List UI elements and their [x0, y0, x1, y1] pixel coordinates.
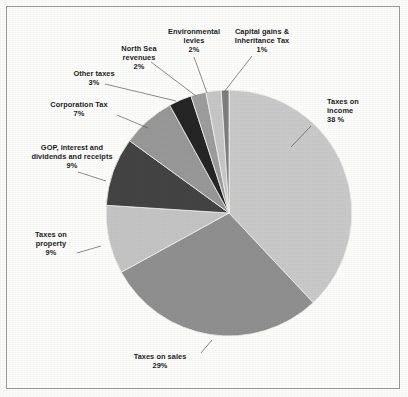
slice-label-capital-gains-inheritance-tax: Capital gains & Inheritance Tax 1% — [228, 27, 296, 55]
slice-label-taxes-on-property: Taxes on property 9% — [22, 230, 80, 258]
slice-label-line2: revenues — [123, 53, 156, 62]
slice-label-line2: levies — [184, 36, 205, 45]
slice-label-line1: Taxes on — [327, 97, 359, 106]
slice-label-line1: Other taxes — [73, 69, 114, 78]
slice-label-line1: Taxes on sales — [134, 352, 187, 361]
slice-value: 2% — [113, 62, 165, 71]
leader-line-corporation-tax — [117, 115, 148, 128]
slice-label-taxes-on-sales: Taxes on sales 29% — [115, 352, 205, 370]
slice-label-line1: North Sea — [121, 44, 156, 53]
slice-value: 1% — [228, 45, 296, 54]
slice-label-line2: dividends and receipts — [31, 152, 112, 161]
leader-line-environmental-levies — [194, 57, 207, 93]
slice-label-taxes-on-income: Taxes on income 38 % — [327, 97, 359, 125]
slice-label-other-taxes: Other taxes 3% — [70, 69, 118, 87]
pie-slices — [106, 90, 352, 336]
leader-line-taxes-on-property — [77, 246, 101, 253]
slice-label-environmental-levies: Environmental levies 2% — [163, 27, 225, 55]
pie-chart-svg — [0, 0, 408, 397]
slice-value: 9% — [28, 161, 116, 170]
slice-label-line1: GOP, interest and — [41, 143, 103, 152]
slice-value: 3% — [70, 78, 118, 87]
leader-line-gop — [78, 172, 106, 181]
slice-value: 7% — [45, 109, 113, 118]
slice-label-line1: Environmental — [168, 27, 220, 36]
slice-label-north-sea-revenues: North Sea revenues 2% — [113, 44, 165, 72]
slice-value: 29% — [115, 361, 205, 370]
slice-label-line2: property — [36, 239, 66, 248]
slice-label-gop-interest-dividends: GOP, interest and dividends and receipts… — [28, 143, 116, 171]
slice-label-line1: Taxes on — [35, 230, 67, 239]
slice-label-line2: Inheritance Tax — [235, 36, 289, 45]
pie-chart-figure: Taxes on income 38 % Taxes on sales 29% … — [0, 0, 408, 397]
slice-value: 38 % — [327, 115, 359, 124]
slice-label-line1: Capital gains & — [235, 27, 289, 36]
slice-value: 2% — [163, 45, 225, 54]
slice-label-corporation-tax: Corporation Tax 7% — [45, 100, 113, 118]
slice-label-line1: Corporation Tax — [50, 100, 107, 109]
slice-value: 9% — [22, 248, 80, 257]
slice-label-line2: income — [327, 106, 353, 115]
leader-line-capital-gains — [224, 56, 252, 92]
chart-area: Taxes on income 38 % Taxes on sales 29% … — [0, 0, 408, 397]
